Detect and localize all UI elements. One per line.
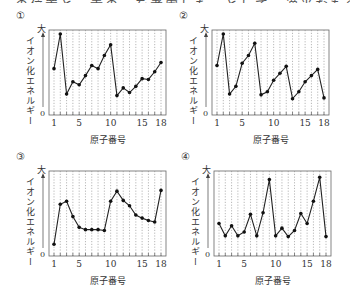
data-point-marker <box>134 213 138 217</box>
data-point-marker <box>215 64 219 68</box>
y-axis-arrow-icon <box>204 32 208 37</box>
data-point-marker <box>274 234 278 238</box>
data-point-marker <box>84 228 88 232</box>
data-series-line <box>54 190 161 244</box>
data-point-marker <box>316 68 320 72</box>
data-point-marker <box>65 199 69 203</box>
data-point-marker <box>322 96 326 100</box>
data-point-marker <box>115 189 119 193</box>
data-point-marker <box>303 80 307 84</box>
data-point-marker <box>223 234 227 238</box>
data-series-line <box>54 34 161 96</box>
data-point-marker <box>52 67 56 71</box>
data-point-marker <box>221 32 225 36</box>
data-point-marker <box>217 222 221 226</box>
data-series-line <box>219 177 326 236</box>
data-point-marker <box>284 65 288 69</box>
data-point-marker <box>259 93 263 97</box>
data-point-marker <box>278 71 282 75</box>
data-point-marker <box>65 92 69 96</box>
data-point-marker <box>96 228 100 232</box>
chart-panel-4: ④大0イオン化エネルギー原子番号15101518 <box>165 147 340 294</box>
data-point-marker <box>115 94 119 98</box>
data-point-marker <box>71 80 75 84</box>
data-point-marker <box>310 74 314 78</box>
line-chart <box>0 147 175 294</box>
data-point-marker <box>299 212 303 216</box>
data-point-marker <box>253 41 257 45</box>
data-point-marker <box>324 235 328 239</box>
data-point-marker <box>134 85 138 89</box>
data-point-marker <box>305 222 309 226</box>
data-point-marker <box>103 54 107 58</box>
data-point-marker <box>247 54 251 58</box>
data-point-marker <box>128 204 132 208</box>
data-point-marker <box>84 74 88 78</box>
data-point-marker <box>286 235 290 239</box>
data-point-marker <box>293 229 297 233</box>
data-point-marker <box>261 211 265 215</box>
data-point-marker <box>242 230 246 234</box>
data-point-marker <box>228 92 232 96</box>
data-point-marker <box>103 229 107 233</box>
data-point-marker <box>147 219 151 223</box>
chart-panel-2: ②大0イオン化エネルギー原子番号15101518 <box>163 6 338 153</box>
data-point-marker <box>109 43 113 47</box>
data-point-marker <box>153 70 157 74</box>
data-point-marker <box>268 178 272 182</box>
line-chart <box>165 147 340 294</box>
data-point-marker <box>147 78 151 82</box>
data-point-marker <box>318 176 322 180</box>
data-point-marker <box>121 199 125 203</box>
data-point-marker <box>272 78 276 82</box>
data-point-marker <box>236 234 240 238</box>
y-axis-arrow-icon <box>206 173 210 178</box>
data-point-marker <box>234 85 238 89</box>
data-point-marker <box>297 90 301 94</box>
chart-panel-3: ③大0イオン化エネルギー原子番号15101518 <box>0 147 175 294</box>
data-point-marker <box>240 61 244 65</box>
chart-panel-1: ①大0イオン化エネルギー原子番号15101518 <box>0 6 175 153</box>
data-point-marker <box>249 212 253 216</box>
data-point-marker <box>77 83 81 87</box>
data-point-marker <box>140 77 144 81</box>
data-point-marker <box>109 199 113 203</box>
data-point-marker <box>96 67 100 71</box>
data-point-marker <box>153 220 157 224</box>
data-point-marker <box>52 243 56 247</box>
data-point-marker <box>121 86 125 90</box>
data-point-marker <box>90 228 94 232</box>
cutoff-header-text: …の位置と元素の…を考慮した…として…適当なもの… <box>0 0 350 3</box>
data-point-marker <box>140 216 144 220</box>
data-point-marker <box>255 234 259 238</box>
data-point-marker <box>128 91 132 95</box>
data-point-marker <box>159 189 163 193</box>
line-chart <box>163 6 338 153</box>
data-point-marker <box>77 226 81 230</box>
data-series-line <box>217 34 324 99</box>
y-axis-arrow-icon <box>41 173 45 178</box>
data-point-marker <box>291 97 295 101</box>
data-point-marker <box>312 199 316 203</box>
data-point-marker <box>58 202 62 206</box>
data-point-marker <box>266 90 270 94</box>
data-point-marker <box>90 64 94 68</box>
data-point-marker <box>71 215 75 219</box>
y-axis-arrow-icon <box>41 32 45 37</box>
line-chart <box>0 6 175 153</box>
data-point-marker <box>58 32 62 36</box>
data-point-marker <box>230 224 234 228</box>
data-point-marker <box>280 226 284 230</box>
